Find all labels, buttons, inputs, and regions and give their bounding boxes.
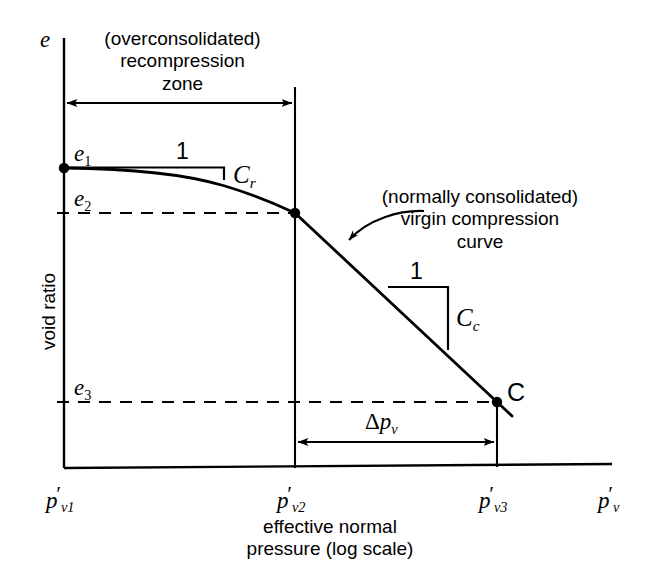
pv-sub: v: [613, 499, 619, 515]
point-label-c: C: [507, 378, 525, 408]
cr-sub: r: [250, 174, 256, 191]
zone-line-2: recompression: [75, 50, 290, 72]
point-marker-e1: [59, 163, 69, 173]
zone-line-3: zone: [75, 73, 290, 95]
y-tick-label-e2: e2: [74, 185, 91, 214]
slope-unit-label-virgin: 1: [410, 258, 423, 285]
pv1-sub: v1: [61, 499, 74, 515]
e3-sub: 3: [84, 387, 91, 403]
delta-symbol: Δ: [365, 409, 380, 434]
cr-slope-label: Cr: [233, 160, 256, 192]
y-tick-label-e1: e1: [74, 140, 91, 169]
e2-sub: 2: [84, 198, 91, 214]
pv2-sub: v2: [292, 499, 305, 515]
delta-pv-label: Δpv: [365, 408, 398, 437]
x-axis-title: effective normal pressure (log scale): [205, 516, 455, 561]
virgin-line-3: curve: [355, 231, 605, 253]
delta-pv-base: p: [380, 409, 392, 434]
virgin-compression-annotation: (normally consolidated) virgin compressi…: [355, 186, 605, 253]
x-axis-line: [64, 464, 612, 468]
y-tick-label-e3: e3: [74, 374, 91, 403]
x-axis-title-line-1: effective normal: [205, 516, 455, 538]
slope-triangle-cc: [388, 287, 448, 350]
point-marker-e2: [290, 208, 300, 218]
cc-base: C: [456, 304, 473, 331]
zone-line-1: (overconsolidated): [75, 28, 290, 50]
e2-base: e: [74, 186, 84, 211]
consolidation-curve-figure: e (overconsolidated) recompression zone …: [0, 0, 659, 580]
x-tick-label-pv1: p′v1: [46, 482, 74, 516]
e1-base: e: [74, 141, 84, 166]
point-marker-c: [492, 397, 502, 407]
x-tick-label-pv2: p′v2: [277, 482, 305, 516]
virgin-line-1: (normally consolidated): [355, 186, 605, 208]
slope-unit-label-recompression: 1: [176, 138, 189, 165]
cr-base: C: [233, 161, 250, 188]
e1-sub: 1: [84, 153, 91, 169]
recompression-zone-annotation: (overconsolidated) recompression zone: [75, 28, 290, 95]
e3-base: e: [74, 375, 84, 400]
virgin-line-2: virgin compression: [355, 208, 605, 230]
recompression-curve: [64, 168, 295, 213]
cc-slope-label: Cc: [456, 303, 480, 335]
pv3-sub: v3: [494, 499, 507, 515]
x-axis-symbol: p′v: [598, 482, 619, 516]
y-axis-title: void ratio: [38, 273, 60, 350]
cc-sub: c: [473, 317, 480, 334]
delta-pv-sub: v: [391, 421, 397, 437]
x-tick-label-pv3: p′v3: [479, 482, 507, 516]
x-axis-title-line-2: pressure (log scale): [205, 538, 455, 560]
y-axis-symbol: e: [40, 26, 50, 53]
